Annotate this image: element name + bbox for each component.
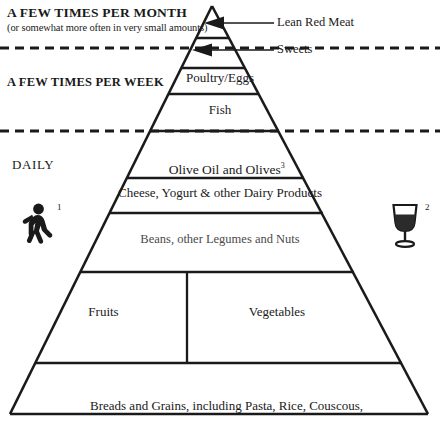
frequency-heading-month-subtitle: (or somewhat more often in very small am… <box>7 22 207 34</box>
tier-label-breads-line1: Breads and Grains, including Pasta, Rice… <box>90 398 363 413</box>
tier-label-olive-oil-text: Olive Oil and Olives <box>169 161 281 176</box>
callout-label-sweets: Sweets <box>277 43 312 57</box>
frequency-heading-month: A FEW TIMES PER MONTH <box>7 6 187 21</box>
callout-arrowhead-sweets <box>192 44 212 57</box>
callout-label-lean-red-meat: Lean Red Meat <box>277 16 354 30</box>
tier-label-fruits: Fruits <box>20 305 187 319</box>
mediterranean-diet-pyramid-diagram: A FEW TIMES PER MONTH (or somewhat more … <box>0 0 440 424</box>
tier-label-fish: Fish <box>0 103 440 117</box>
tier-label-breads-grains: Breads and Grains, including Pasta, Rice… <box>0 378 440 424</box>
pyramid-line-art <box>0 0 440 424</box>
tier-label-poultry-eggs: Poultry/Eggs <box>0 71 440 85</box>
wine-glass-footnote-marker: 2 <box>425 202 430 212</box>
tier-label-beans: Beans, other Legumes and Nuts <box>0 233 440 247</box>
tier-label-dairy: Cheese, Yogurt & other Dairy Products <box>0 186 440 200</box>
walking-person-footnote-marker: 1 <box>57 202 62 212</box>
tier-label-vegetables: Vegetables <box>187 305 367 319</box>
tier-label-olive-oil-footnote: 3 <box>281 161 285 170</box>
